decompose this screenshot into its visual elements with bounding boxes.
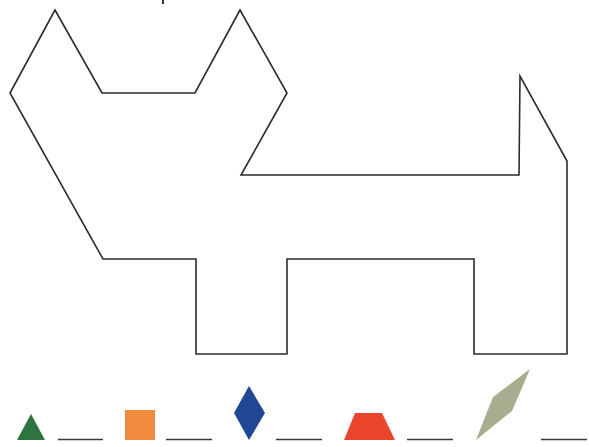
cropped-text-fragment <box>162 0 164 4</box>
shape-key-thin-rhombus <box>476 369 587 440</box>
orange-square-icon <box>125 410 155 440</box>
shape-key-rhombus <box>234 386 322 440</box>
green-triangle-icon <box>17 414 45 440</box>
shape-key-triangle <box>17 414 103 440</box>
worksheet-canvas <box>0 0 589 447</box>
shape-key-trapezoid <box>344 413 453 440</box>
shape-key-square <box>125 410 212 440</box>
cat-outline <box>10 10 567 354</box>
tan-thin-rhombus-icon <box>476 369 530 440</box>
red-trapezoid-icon <box>344 413 395 440</box>
blue-rhombus-icon <box>234 386 265 440</box>
